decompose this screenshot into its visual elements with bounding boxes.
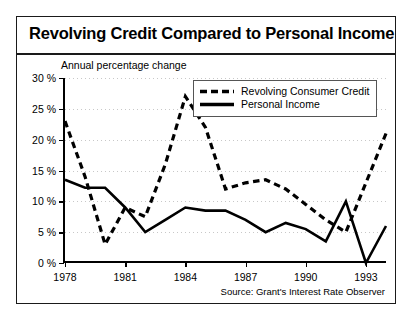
chart-legend: Revolving Consumer Credit Personal Incom…: [193, 80, 377, 117]
x-axis-label: 1990: [294, 271, 317, 283]
x-axis-label: 1981: [114, 271, 137, 283]
x-axis-tick: [246, 263, 247, 267]
chart-subtitle: Annual percentage change: [61, 59, 187, 71]
legend-item-revolving-consumer-credit: Revolving Consumer Credit: [200, 85, 369, 98]
x-axis-label: 1978: [53, 271, 76, 283]
y-axis-label: 10 %: [32, 195, 56, 207]
legend-key-dashed: [200, 86, 234, 97]
x-axis-tick: [65, 263, 66, 267]
y-axis-label: 15 %: [32, 165, 56, 177]
y-axis-label: 5 %: [38, 226, 56, 238]
x-axis-label: 1993: [354, 271, 377, 283]
y-axis-label: 25 %: [32, 103, 56, 115]
legend-item-personal-income: Personal Income: [200, 98, 369, 111]
series-revolving-consumer-credit: [65, 97, 386, 245]
y-axis-tick: [59, 263, 64, 264]
chart-title: Revolving Credit Compared to Personal In…: [29, 24, 394, 43]
x-axis-tick: [185, 263, 186, 267]
y-axis-label: 0 %: [38, 257, 56, 269]
x-axis-tick: [125, 263, 126, 267]
x-axis-tick: [306, 263, 307, 267]
title-divider: [17, 53, 395, 55]
legend-label: Revolving Consumer Credit: [241, 85, 369, 98]
legend-key-solid: [200, 99, 234, 110]
chart-figure: Revolving Credit Compared to Personal In…: [16, 16, 396, 304]
series-personal-income: [65, 180, 386, 263]
x-axis-label: 1984: [174, 271, 197, 283]
y-axis-label: 20 %: [32, 134, 56, 146]
x-axis-label: 1987: [234, 271, 257, 283]
legend-label: Personal Income: [241, 98, 320, 111]
y-axis-label: 30 %: [32, 72, 56, 84]
source-attribution: Source: Grant's Interest Rate Observer: [221, 286, 385, 297]
